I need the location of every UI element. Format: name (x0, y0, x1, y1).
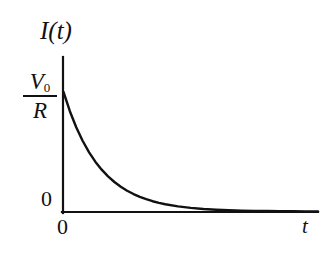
decay-curve (64, 92, 319, 211)
exponential-decay-figure: I(t) V0 R 0 0 t (0, 0, 330, 265)
y-axis-label: I(t) (40, 18, 72, 43)
fraction-denominator: R (19, 99, 61, 122)
fraction-bar (23, 95, 57, 97)
fraction-numerator-subscript: 0 (44, 80, 51, 95)
fraction-numerator-text: V (30, 69, 44, 94)
x-axis-origin-label: 0 (57, 216, 68, 238)
x-axis-label: t (302, 216, 308, 237)
y-max-value-label: V0 R (19, 70, 61, 122)
y-axis-zero-label: 0 (41, 188, 52, 210)
fraction-numerator: V0 (19, 70, 61, 94)
